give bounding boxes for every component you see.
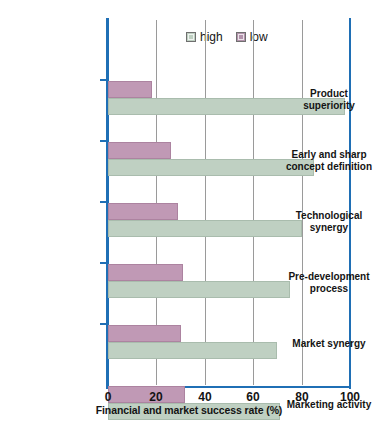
y-axis-tick: [100, 140, 107, 142]
category-label-line1: Market synergy: [292, 338, 365, 349]
category-label-line1: Early and sharp: [291, 149, 366, 160]
category-label-line2: synergy: [310, 222, 348, 233]
category-label-line2: process: [310, 283, 348, 294]
y-axis-tick: [100, 79, 107, 81]
category-label-technological-synergy: Technological synergy: [280, 210, 378, 233]
category-label-pre-development-process: Pre-development process: [280, 271, 378, 294]
x-tick-label-60: 60: [233, 390, 273, 404]
bar-high-pre-development-process: [108, 281, 290, 298]
category-label-line1: Product: [310, 88, 348, 99]
category-label-product-superiority: Product superiority: [280, 88, 378, 111]
y-axis-tick: [100, 201, 107, 203]
category-label-line1: Technological: [296, 210, 363, 221]
x-tick-label-100: 100: [330, 390, 370, 404]
gridline-60: [253, 20, 254, 385]
bar-chart: high low: [0, 0, 378, 435]
y-axis-tick: [100, 323, 107, 325]
category-label-line1: Pre-development: [288, 271, 369, 282]
x-tick-label-40: 40: [185, 390, 225, 404]
x-tick-label-0: 0: [88, 390, 128, 404]
gridline-80: [302, 20, 303, 385]
category-label-line2: concept definition: [286, 161, 372, 172]
bar-low-technological-synergy: [108, 203, 178, 220]
bar-low-market-synergy: [108, 325, 181, 342]
x-axis-title: Financial and market success rate (%): [0, 404, 378, 416]
gridline-40: [205, 20, 206, 385]
category-label-market-synergy: Market synergy: [280, 338, 378, 350]
bar-low-pre-development-process: [108, 264, 183, 281]
plot-area: [108, 20, 350, 385]
category-label-early-concept-definition: Early and sharp concept definition: [280, 149, 378, 172]
category-label-line2: superiority: [303, 100, 355, 111]
bar-high-market-synergy: [108, 342, 277, 359]
bar-low-early-concept-definition: [108, 142, 171, 159]
bar-high-technological-synergy: [108, 220, 302, 237]
y-axis-tick: [100, 262, 107, 264]
x-tick-label-80: 80: [282, 390, 322, 404]
bar-low-product-superiority: [108, 81, 152, 98]
x-tick-label-20: 20: [136, 390, 176, 404]
